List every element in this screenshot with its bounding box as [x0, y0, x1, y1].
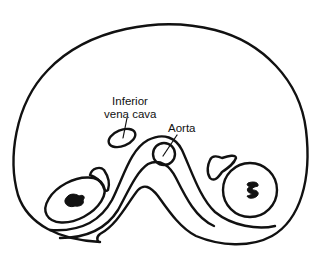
- left-kidney-hilum-mark: [65, 194, 84, 207]
- left-adrenal: [90, 168, 109, 191]
- ivc-label-line1: Inferior: [104, 95, 156, 108]
- cross-section-diagram: Inferior vena cava Aorta: [0, 0, 315, 260]
- right-kidney-hilum-mark: [247, 182, 258, 198]
- ivc-label: Inferior vena cava: [104, 95, 156, 121]
- diagram-svg: [0, 0, 315, 260]
- ivc-label-line2: vena cava: [104, 108, 156, 121]
- aorta-label: Aorta: [168, 122, 196, 135]
- body-outline: [14, 24, 308, 244]
- right-adrenal: [208, 156, 236, 180]
- inferior-vena-cava: [106, 125, 138, 150]
